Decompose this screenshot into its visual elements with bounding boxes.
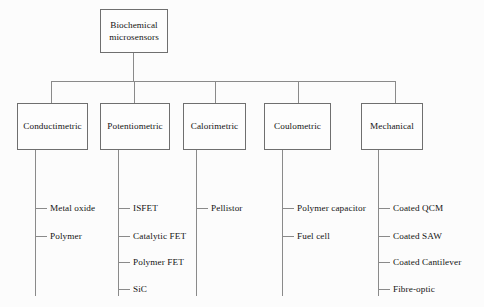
- category-node-conductimetric: Conductimetric: [17, 103, 88, 150]
- leaf-label-sic: SiC: [133, 285, 147, 294]
- bus-drop-mechanical: [395, 81, 396, 103]
- leaf-label-coated-saw: Coated SAW: [393, 232, 442, 241]
- leaf-label-coated-qcm: Coated QCM: [393, 204, 443, 213]
- leaf-label-polymer-capacitor: Polymer capacitor: [297, 204, 366, 213]
- category-node-potentiometric: Potentiometric: [100, 103, 170, 150]
- category-node-coulometric: Coulometric: [264, 103, 331, 150]
- leaf-label-isfet: ISFET: [133, 204, 158, 213]
- bus-drop-conductimetric: [51, 81, 52, 103]
- diagram-canvas: Biochemical microsensors Conductimetric …: [0, 0, 484, 307]
- leaf-tick-coated-saw: [379, 236, 390, 237]
- category-label-mechanical: Mechanical: [368, 120, 416, 132]
- branch-stem-potentiometric: [118, 150, 119, 296]
- distribution-bus: [51, 81, 396, 82]
- category-label-potentiometric: Potentiometric: [105, 120, 165, 132]
- leaf-label-fuel-cell: Fuel cell: [297, 232, 330, 241]
- leaf-label-catalytic-fet: Catalytic FET: [133, 232, 186, 241]
- bus-drop-potentiometric: [134, 81, 135, 103]
- leaf-tick-metal-oxide: [36, 208, 47, 209]
- branch-stem-coulometric: [282, 150, 283, 296]
- leaf-label-metal-oxide: Metal oxide: [50, 204, 95, 213]
- root-node-label-line2: microsensors: [107, 31, 161, 43]
- leaf-tick-catalytic-fet: [119, 236, 130, 237]
- root-stem: [133, 53, 134, 82]
- leaf-tick-polymer-capacitor: [283, 208, 294, 209]
- leaf-tick-polymer-fet: [119, 262, 130, 263]
- category-node-mechanical: Mechanical: [361, 103, 423, 150]
- category-label-calorimetric: Calorimetric: [189, 120, 241, 132]
- root-node-label: Biochemical microsensors: [105, 19, 163, 43]
- leaf-label-polymer: Polymer: [50, 232, 82, 241]
- leaf-label-pellistor: Pellistor: [211, 204, 243, 213]
- category-label-coulometric: Coulometric: [272, 120, 323, 132]
- leaf-tick-isfet: [119, 208, 130, 209]
- leaf-tick-fuel-cell: [283, 236, 294, 237]
- leaf-tick-coated-qcm: [379, 208, 390, 209]
- category-node-calorimetric: Calorimetric: [183, 103, 246, 150]
- leaf-tick-pellistor: [197, 208, 208, 209]
- branch-stem-calorimetric: [196, 150, 197, 296]
- bus-drop-calorimetric: [215, 81, 216, 103]
- leaf-tick-sic: [119, 289, 130, 290]
- leaf-label-fibre-optic: Fibre-optic: [393, 285, 435, 294]
- root-node-label-line1: Biochemical: [107, 19, 161, 31]
- bus-drop-coulometric: [298, 81, 299, 103]
- root-node-biochemical-microsensors: Biochemical microsensors: [100, 9, 168, 53]
- leaf-label-polymer-fet: Polymer FET: [133, 258, 184, 267]
- category-label-conductimetric: Conductimetric: [21, 120, 84, 132]
- branch-stem-mechanical: [378, 150, 379, 296]
- branch-stem-conductimetric: [35, 150, 36, 296]
- leaf-tick-polymer: [36, 236, 47, 237]
- leaf-tick-fibre-optic: [379, 289, 390, 290]
- leaf-tick-coated-cantilever: [379, 262, 390, 263]
- leaf-label-coated-cantilever: Coated Cantilever: [393, 258, 461, 267]
